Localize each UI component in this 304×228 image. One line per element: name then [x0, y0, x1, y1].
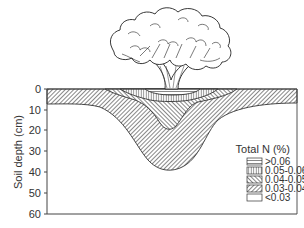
y-tick-30: 30 — [29, 145, 41, 157]
legend-swatch — [247, 185, 262, 192]
legend-swatch — [247, 158, 262, 165]
y-tick-50: 50 — [29, 187, 41, 199]
y-axis-title: Soil depth (cm) — [12, 115, 24, 189]
legend: Total N (%) >0.06 0.05-0.06 0.04-0.05 0.… — [236, 143, 304, 203]
y-tick-10: 10 — [29, 104, 41, 116]
tree-icon — [110, 8, 230, 89]
legend-label: <0.03 — [265, 192, 291, 203]
legend-swatch — [247, 176, 262, 183]
legend-title: Total N (%) — [236, 143, 290, 155]
y-axis: 0 10 20 30 40 50 60 Soil depth (cm) — [12, 83, 47, 220]
y-tick-0: 0 — [35, 83, 41, 95]
legend-swatch — [247, 194, 262, 201]
soil-nitrogen-diagram: 0 10 20 30 40 50 60 Soil depth (cm) Tota… — [0, 0, 304, 228]
y-tick-60: 60 — [29, 208, 41, 220]
y-tick-40: 40 — [29, 166, 41, 178]
y-tick-20: 20 — [29, 124, 41, 136]
legend-item-lt-0.03: <0.03 — [247, 192, 291, 203]
legend-swatch — [247, 167, 262, 174]
